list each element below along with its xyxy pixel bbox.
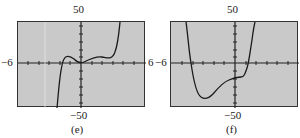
e-bottom-label: −50 xyxy=(70,110,87,121)
e-right-label: 6 xyxy=(148,57,154,68)
f-caption: (f) xyxy=(226,124,237,135)
chart-f-plot xyxy=(171,22,299,108)
f-left-label: −6 xyxy=(155,57,167,68)
curve-e xyxy=(57,22,120,108)
chart-panel-e xyxy=(17,21,145,107)
e-caption: (e) xyxy=(71,124,83,135)
chart-e-plot xyxy=(18,22,146,108)
e-top-label: 50 xyxy=(73,4,84,15)
chart-panel-f xyxy=(170,21,298,107)
e-left-label: −6 xyxy=(1,57,13,68)
curve-f xyxy=(186,22,255,98)
f-top-label: 50 xyxy=(227,4,238,15)
f-bottom-label: −50 xyxy=(224,110,241,121)
